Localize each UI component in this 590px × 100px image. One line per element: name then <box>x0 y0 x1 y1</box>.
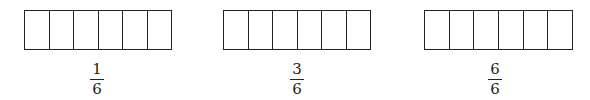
fraction-3-numerator: 6 <box>490 62 500 79</box>
bar-2-cell-1 <box>224 11 249 49</box>
fraction-label-2: 3 6 <box>282 62 312 97</box>
bar-3-cell-6 <box>548 11 572 49</box>
bar-1-cell-1 <box>25 11 50 49</box>
fraction-1-numerator: 1 <box>92 62 102 79</box>
bar-3-cell-1 <box>425 11 450 49</box>
bar-3-cell-5 <box>524 11 549 49</box>
fraction-3-denominator: 6 <box>490 80 500 97</box>
fraction-bar-3 <box>424 10 573 50</box>
fraction-label-1: 1 6 <box>82 62 112 97</box>
fraction-bar-1 <box>24 10 172 50</box>
bar-1-cell-4 <box>99 11 124 49</box>
fraction-bar-2 <box>223 10 371 50</box>
bar-3-cell-4 <box>499 11 524 49</box>
bar-2-cell-3 <box>273 11 298 49</box>
bar-2-cell-6 <box>347 11 371 49</box>
bar-3-cell-2 <box>450 11 475 49</box>
bar-2-cell-4 <box>298 11 323 49</box>
fraction-2-numerator: 3 <box>292 62 302 79</box>
bar-2-cell-2 <box>249 11 274 49</box>
bar-1-cell-2 <box>50 11 75 49</box>
fraction-label-3: 6 6 <box>480 62 510 97</box>
fraction-1-denominator: 6 <box>92 80 102 97</box>
bar-2-cell-5 <box>322 11 347 49</box>
fraction-2-denominator: 6 <box>292 80 302 97</box>
bar-1-cell-3 <box>74 11 99 49</box>
bar-1-cell-6 <box>148 11 172 49</box>
bar-3-cell-3 <box>474 11 499 49</box>
bar-1-cell-5 <box>123 11 148 49</box>
